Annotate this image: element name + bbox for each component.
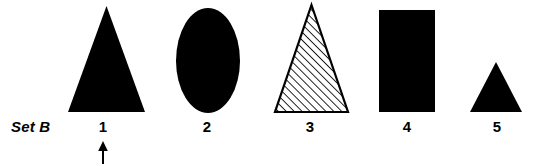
- pointer-arrow: [98, 141, 108, 164]
- item-number-2: 2: [187, 118, 227, 136]
- shape-3-triangle-hatched: [275, 5, 348, 112]
- shape-4-rectangle-solid: [379, 10, 435, 112]
- set-label: Set B: [11, 118, 50, 136]
- shape-1-triangle-solid: [68, 6, 145, 112]
- item-number-1: 1: [83, 118, 123, 136]
- figure-set-b: Set B 1 2 3 4 5: [0, 0, 537, 166]
- item-number-4: 4: [387, 118, 427, 136]
- shape-5-triangle-solid-small: [470, 62, 522, 112]
- shapes-layer: [0, 0, 537, 166]
- item-number-3: 3: [290, 118, 330, 136]
- item-number-5: 5: [477, 118, 517, 136]
- shape-2-ellipse-solid: [176, 8, 240, 113]
